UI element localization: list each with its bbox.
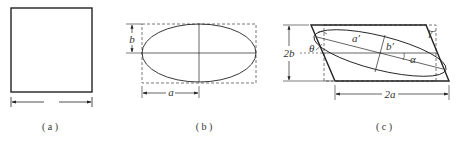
panel-c: a′ b′ α θ γ 2b 2a ( c ) (283, 20, 450, 133)
label-a-prime: a′ (352, 32, 361, 44)
caption-a: ( a ) (42, 121, 58, 133)
panel-a: ( a ) (11, 8, 92, 133)
caption-c: ( c ) (376, 121, 392, 133)
label-alpha: α (410, 53, 416, 65)
label-theta: θ (309, 42, 315, 54)
label-2a: 2a (385, 88, 397, 100)
deformation-diagram: ( a ) b a ( b ) (0, 0, 462, 142)
minor-axis (375, 35, 385, 72)
label-2b: 2b (284, 47, 296, 59)
label-gamma: γ (428, 26, 433, 38)
panel-b: b a ( b ) (126, 24, 256, 133)
label-b: b (129, 33, 135, 45)
square (11, 8, 92, 92)
label-a: a (168, 86, 174, 98)
label-b-prime: b′ (386, 40, 395, 52)
caption-b: ( b ) (196, 121, 213, 133)
